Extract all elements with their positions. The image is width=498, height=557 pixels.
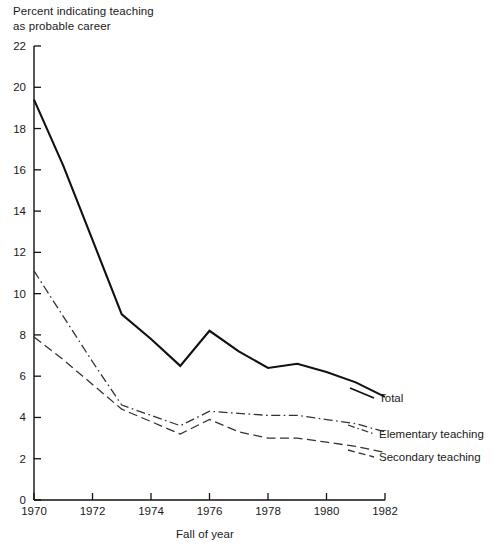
x-axis-tick-label: 1982 — [372, 505, 398, 517]
x-axis-tick-label: 1978 — [255, 505, 281, 517]
x-axis-tick-group: 1970197219741976197819801982 — [21, 493, 398, 517]
y-axis-tick-label: 2 — [20, 453, 26, 465]
leader-line-elementary — [348, 425, 374, 434]
x-axis-tick-label: 1972 — [80, 505, 106, 517]
series-line-secondary-teaching — [34, 337, 385, 453]
x-axis-tick-label: 1976 — [197, 505, 223, 517]
y-axis-tick-label: 10 — [13, 288, 26, 300]
y-axis-tick-label: 18 — [13, 123, 26, 135]
x-axis-tick-label: 1980 — [314, 505, 340, 517]
series-label-elementary-teaching: Elementary teaching — [379, 428, 484, 440]
x-axis-tick-label: 1970 — [21, 505, 47, 517]
leader-line-secondary — [348, 450, 374, 457]
y-axis-tick-label: 8 — [20, 329, 26, 341]
series-label-total: Total — [379, 392, 403, 404]
x-axis-tick-label: 1974 — [138, 505, 164, 517]
series-line-elementary-teaching — [34, 271, 385, 432]
y-axis-tick-label: 16 — [13, 164, 26, 176]
chart-plot-area: 0246810121416182022 19701972197419761978… — [0, 0, 498, 557]
y-axis-tick-label: 12 — [13, 246, 26, 258]
x-axis-title: Fall of year — [0, 528, 410, 540]
y-axis-tick-label: 4 — [20, 411, 27, 423]
chart-container: Percent indicating teaching as probable … — [0, 0, 498, 557]
y-axis-tick-label: 22 — [13, 40, 26, 52]
series-label-secondary-teaching: Secondary teaching — [379, 451, 481, 463]
y-axis-tick-label: 14 — [13, 205, 26, 217]
y-axis-tick-group: 0246810121416182022 — [13, 40, 41, 506]
y-axis-tick-label: 6 — [20, 370, 26, 382]
y-axis-tick-label: 20 — [13, 81, 26, 93]
